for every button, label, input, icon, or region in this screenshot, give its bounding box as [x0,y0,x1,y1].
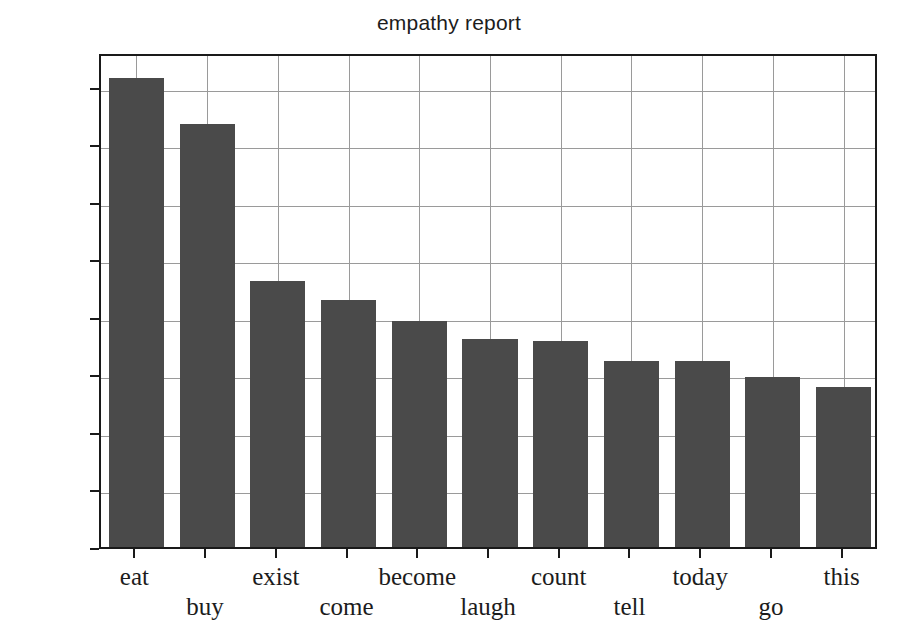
x-tick-mark [558,549,560,558]
x-tick-label: go [758,593,783,621]
x-tick-mark [628,549,630,558]
x-tick-label: become [378,563,456,591]
x-tick-label: count [531,563,587,591]
x-tick-mark [841,549,843,558]
x-tick-mark [346,549,348,558]
x-axis: eatbuyexistcomebecomelaughcounttelltoday… [0,0,898,641]
chart-figure: empathy report 0200400600800100012001400… [0,0,898,641]
x-tick-label: laugh [460,593,516,621]
x-tick-label: this [824,563,860,591]
x-tick-label: buy [186,593,224,621]
x-tick-mark [699,549,701,558]
x-tick-mark [133,549,135,558]
x-tick-mark [204,549,206,558]
x-tick-label: come [319,593,373,621]
x-tick-mark [487,549,489,558]
x-tick-mark [416,549,418,558]
x-tick-label: exist [252,563,299,591]
x-tick-label: today [672,563,728,591]
x-tick-mark [770,549,772,558]
x-tick-label: tell [613,593,645,621]
x-tick-mark [275,549,277,558]
x-tick-label: eat [120,563,149,591]
